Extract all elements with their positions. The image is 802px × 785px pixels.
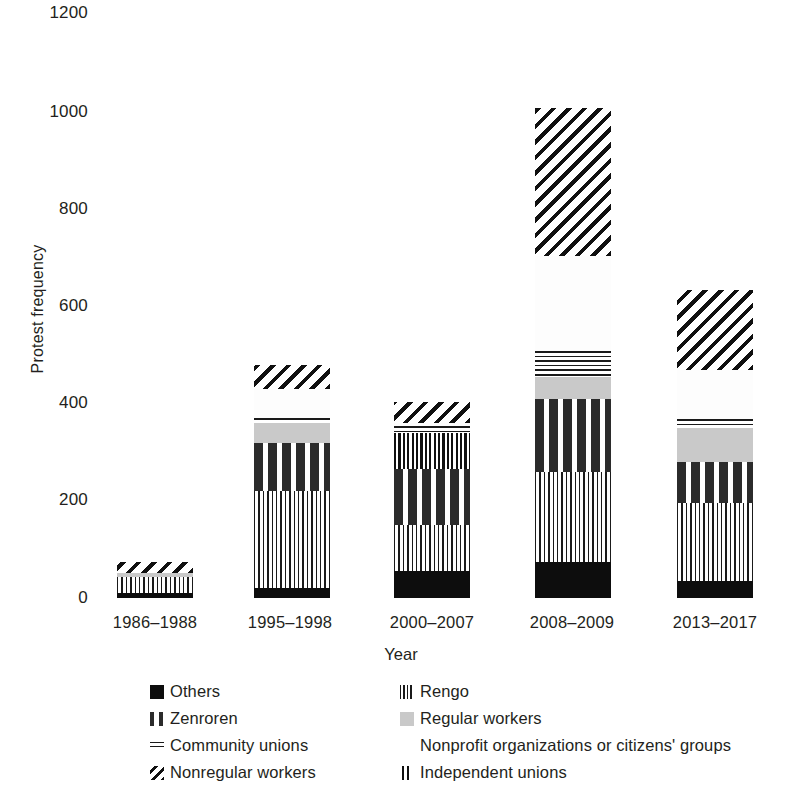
legend-item-zenroren: Zenroren — [150, 709, 400, 728]
legend-label-nonprofit: Nonprofit organizations or citizens' gro… — [420, 736, 731, 755]
bar-segment-community-unions — [394, 426, 470, 433]
x-tick-2013-2017: 2013–2017 — [640, 613, 790, 632]
regular-workers-swatch — [400, 712, 414, 726]
bar-segment-zenroren — [394, 469, 470, 525]
legend-label-independent-unions: Independent unions — [420, 763, 567, 782]
bar-segment-regular-workers — [254, 423, 330, 442]
nonprofit-swatch — [400, 739, 414, 753]
bar-segment-community-unions — [254, 418, 330, 424]
bar-segment-zenroren — [677, 462, 753, 503]
legend-label-nonregular-workers: Nonregular workers — [170, 763, 316, 782]
bar-segment-nonprofit-organizations-or-citizens-groups — [394, 423, 470, 425]
bar-2000-2007 — [394, 0, 470, 598]
bar-segment-nonprofit-organizations-or-citizens-groups — [254, 389, 330, 417]
bar-segment-others — [677, 581, 753, 598]
others-swatch — [150, 685, 164, 699]
legend-label-zenroren: Zenroren — [170, 709, 238, 728]
bar-segment-nonregular-workers — [535, 108, 611, 256]
legend-row: Zenroren Regular workers — [150, 705, 790, 732]
nonregular-workers-swatch — [150, 766, 164, 780]
bar-segment-zenroren — [254, 443, 330, 492]
chart-container: Protest frequency 1200 1000 800 600 400 … — [0, 0, 802, 785]
bar-1995-1998 — [254, 0, 330, 598]
bar-2013-2017 — [677, 0, 753, 598]
bar-segment-nonprofit-organizations-or-citizens-groups — [535, 256, 611, 351]
bar-segment-nonregular-workers — [117, 562, 193, 573]
bar-segment-regular-workers — [535, 377, 611, 399]
legend-item-nonprofit: Nonprofit organizations or citizens' gro… — [400, 736, 790, 755]
chart-legend: Others Rengo Zenroren Regular workers Co… — [150, 678, 790, 785]
bar-segment-others — [394, 571, 470, 598]
bar-1986-1988 — [117, 0, 193, 598]
bar-segment-regular-workers — [677, 428, 753, 462]
rengo-swatch — [400, 685, 414, 699]
legend-item-rengo: Rengo — [400, 682, 790, 701]
community-unions-swatch — [150, 739, 164, 753]
bar-segment-regular-workers — [117, 573, 193, 577]
x-axis-title: Year — [0, 645, 802, 664]
bar-segment-community-unions — [677, 419, 753, 429]
legend-label-regular-workers: Regular workers — [420, 709, 542, 728]
legend-item-regular-workers: Regular workers — [400, 709, 790, 728]
legend-row: Community unions Nonprofit organizations… — [150, 732, 790, 759]
bar-segment-rengo — [677, 503, 753, 581]
bar-segment-community-unions — [535, 351, 611, 378]
legend-item-community-unions: Community unions — [150, 736, 400, 755]
bar-segment-others — [254, 588, 330, 598]
bar-segment-nonregular-workers — [677, 290, 753, 370]
bar-segment-rengo — [394, 525, 470, 571]
bar-segment-nonregular-workers — [254, 365, 330, 389]
plot-area — [0, 0, 802, 598]
bar-segment-nonprofit-organizations-or-citizens-groups — [677, 370, 753, 419]
bar-segment-zenroren — [535, 399, 611, 472]
bar-segment-nonregular-workers — [394, 402, 470, 424]
bar-segment-independent-unions — [394, 433, 470, 469]
legend-label-community-unions: Community unions — [170, 736, 308, 755]
legend-label-others: Others — [170, 682, 220, 701]
x-tick-2008-2009: 2008–2009 — [497, 613, 647, 632]
bar-segment-rengo — [117, 577, 193, 593]
zenroren-swatch — [150, 712, 164, 726]
legend-row: Others Rengo — [150, 678, 790, 705]
legend-item-nonregular-workers: Nonregular workers — [150, 763, 400, 782]
bar-segment-rengo — [254, 491, 330, 588]
bar-segment-rengo — [535, 472, 611, 562]
independent-unions-swatch — [400, 766, 414, 780]
x-tick-1986-1988: 1986–1988 — [80, 613, 230, 632]
bar-segment-others — [535, 562, 611, 598]
legend-row: Nonregular workers Independent unions — [150, 759, 790, 785]
bar-segment-others — [117, 593, 193, 598]
bar-2008-2009 — [535, 0, 611, 598]
x-tick-2000-2007: 2000–2007 — [357, 613, 507, 632]
legend-label-rengo: Rengo — [420, 682, 469, 701]
x-tick-1995-1998: 1995–1998 — [215, 613, 365, 632]
legend-item-independent-unions: Independent unions — [400, 763, 790, 782]
legend-item-others: Others — [150, 682, 400, 701]
